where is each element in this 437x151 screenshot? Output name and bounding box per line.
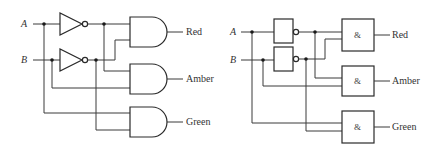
junction-dot xyxy=(250,30,254,34)
junction-dot xyxy=(261,58,265,62)
and-symbol: & xyxy=(354,122,361,132)
and-gate-green-icon xyxy=(130,107,167,137)
not-gate-b-icon xyxy=(274,47,293,71)
right-circuit: A B & Red & Amber xyxy=(229,19,420,143)
right-output-amber-label: Amber xyxy=(392,75,420,86)
junction-dot xyxy=(42,22,46,26)
wire-notb-red xyxy=(88,40,130,60)
left-output-red-label: Red xyxy=(186,26,202,37)
inversion-bubble-b-icon xyxy=(293,56,298,61)
left-input-a-label: A xyxy=(20,18,28,29)
junction-dot xyxy=(50,58,54,62)
right-output-green-label: Green xyxy=(392,121,416,132)
left-output-amber-label: Amber xyxy=(186,73,214,84)
inversion-bubble-a-icon xyxy=(82,21,87,26)
and-gate-amber-icon xyxy=(130,64,167,94)
inversion-bubble-b-icon xyxy=(82,57,87,62)
junction-dot xyxy=(94,58,98,62)
wire-a-green xyxy=(44,24,130,113)
wire-notb-red xyxy=(299,39,342,59)
junction-dot xyxy=(102,22,106,26)
and-symbol: & xyxy=(354,30,361,40)
not-gate-a-icon xyxy=(274,19,293,43)
left-output-green-label: Green xyxy=(186,116,210,127)
left-circuit: A B Red Amber Green xyxy=(20,13,214,137)
wire-notb-green xyxy=(306,59,342,131)
junction-dot xyxy=(304,57,308,61)
not-gate-b-icon xyxy=(60,49,82,71)
logic-diagram: A B Red Amber Green xyxy=(0,0,437,151)
wire-nota-amber xyxy=(104,24,130,71)
junction-dot xyxy=(313,30,317,34)
right-input-a-label: A xyxy=(229,26,237,37)
right-input-b-label: B xyxy=(230,54,236,65)
not-gate-a-icon xyxy=(60,13,82,35)
and-gate-red-icon xyxy=(130,17,167,47)
left-input-b-label: B xyxy=(21,54,27,65)
inversion-bubble-a-icon xyxy=(293,29,298,34)
and-symbol: & xyxy=(354,76,361,86)
right-output-red-label: Red xyxy=(392,29,408,40)
